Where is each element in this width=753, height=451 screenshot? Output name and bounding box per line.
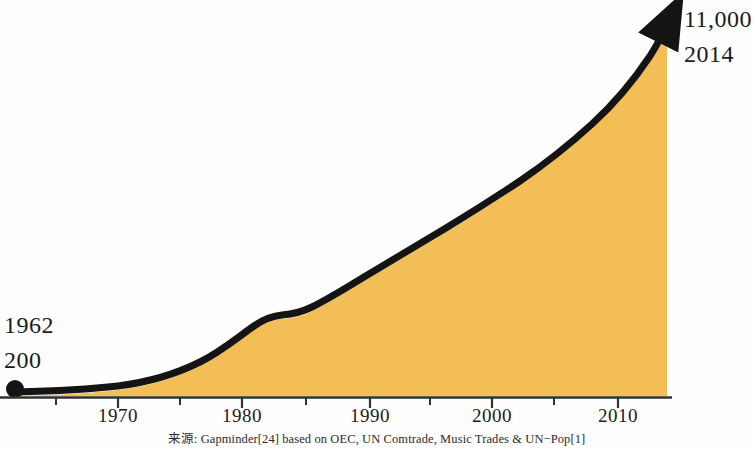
area-chart-canvas — [0, 0, 753, 451]
chart-figure: 1970 1980 1990 2000 2010 1962 200 11,000… — [0, 0, 753, 451]
source-caption: 来源: Gapminder[24] based on OEC, UN Comtr… — [0, 428, 753, 447]
start-point-value-label: 200 — [4, 347, 42, 374]
area-fill — [16, 30, 667, 396]
x-axis-tick-label-2000: 2000 — [472, 405, 512, 427]
x-axis-tick-label-1970: 1970 — [98, 405, 138, 427]
x-axis-tick-label-1980: 1980 — [222, 405, 262, 427]
end-point-value-label: 11,000 — [684, 6, 752, 33]
end-point-year-label: 2014 — [684, 41, 734, 68]
x-axis-tick-label-1990: 1990 — [350, 405, 390, 427]
start-point-year-label: 1962 — [4, 312, 54, 339]
start-point-marker — [6, 380, 24, 398]
x-axis-tick-label-2010: 2010 — [598, 405, 638, 427]
